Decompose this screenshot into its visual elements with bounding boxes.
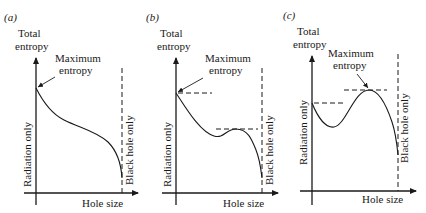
annotation-line2-c: entropy [333, 59, 367, 71]
y-axis-label-line2-b: entropy [157, 40, 191, 52]
entropy-diagram: (a) Total entropy Hole size Radiation on… [0, 0, 426, 213]
y-axis-label-line2-c: entropy [293, 38, 327, 50]
entropy-curve-c [312, 90, 398, 155]
radiation-only-label-c: Radiation only [297, 99, 309, 165]
radiation-only-label-a: Radiation only [21, 121, 33, 187]
entropy-curve-b [176, 93, 262, 178]
y-axis-label-line1-c: Total [297, 25, 319, 37]
annotation-arrow-c [357, 74, 368, 88]
x-axis-label-a: Hole size [82, 197, 123, 209]
x-axis-label-b: Hole size [223, 197, 264, 209]
annotation-line1-b: Maximum [205, 52, 251, 64]
y-axis-label-line1-b: Total [160, 27, 182, 39]
black-hole-only-label-a: Black hole only [123, 115, 135, 185]
y-axis-label-line2-a: entropy [15, 40, 49, 52]
radiation-only-label-b: Radiation only [161, 121, 173, 187]
x-axis-label-c: Hole size [362, 193, 403, 205]
y-axis-label-line1-a: Total [18, 27, 40, 39]
annotation-line1-a: Maximum [55, 52, 101, 64]
black-hole-only-label-c: Black hole only [398, 93, 410, 163]
annotation-arrow-a [38, 77, 55, 87]
annotation-arrow-b [178, 78, 203, 92]
panel-b: (b) Total entropy Hole size Radiation on… [146, 11, 278, 209]
black-hole-only-label-b: Black hole only [263, 115, 275, 185]
annotation-line1-c: Maximum [328, 47, 374, 59]
panel-c: (c) Total entropy Hole size Radiation on… [283, 9, 416, 205]
panel-label-c: (c) [283, 9, 296, 22]
annotation-line2-a: entropy [59, 64, 93, 76]
panel-label-a: (a) [4, 11, 17, 24]
panel-a: (a) Total entropy Hole size Radiation on… [4, 11, 138, 209]
entropy-curve-a [36, 88, 122, 178]
panel-label-b: (b) [146, 11, 159, 24]
annotation-line2-b: entropy [209, 64, 243, 76]
